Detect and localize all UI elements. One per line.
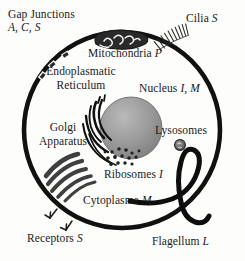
nucleus-sphere	[100, 97, 162, 159]
label-mitochondria-codes: P	[155, 47, 162, 59]
label-ribosomes-codes: I	[159, 168, 163, 180]
label-er-line2: Reticulum	[57, 79, 106, 91]
label-gap-junctions-name: Gap Junctions	[8, 8, 75, 20]
label-cytoplasma-name: Cytoplasma	[83, 194, 139, 206]
label-gap-junctions: Gap Junctions A, C, S	[8, 8, 75, 34]
label-lysosomes: Lysosomes	[155, 124, 207, 137]
label-receptors-name: Receptors	[27, 232, 74, 244]
label-flagellum-codes: L	[203, 235, 210, 247]
label-golgi-line1: Golgi	[50, 121, 77, 133]
label-golgi-line2: Apparatus	[39, 135, 87, 147]
label-cytoplasma: Cytoplasma M	[83, 194, 152, 207]
label-cytoplasma-codes: M	[142, 194, 152, 206]
label-nucleus-name: Nucleus	[139, 82, 177, 94]
label-nucleus-codes: I, M	[180, 82, 200, 94]
label-golgi-apparatus: Golgi Apparatus	[28, 120, 98, 148]
label-endoplasmatic-reticulum: Endoplasmatic Reticulum	[33, 64, 129, 92]
lysosome-body	[175, 140, 186, 151]
label-receptors: Receptors S	[27, 232, 83, 245]
label-nucleus: Nucleus I, M	[139, 82, 200, 95]
label-flagellum: Flagellum L	[152, 235, 209, 248]
label-mitochondria-name: Mitochondria	[88, 47, 152, 59]
cell-diagram-figure: Gap Junctions A, C, S Cilia S Mitochondr…	[0, 0, 245, 261]
label-mitochondria: Mitochondria P	[88, 47, 162, 60]
label-ribosomes: Ribosomes I	[104, 168, 163, 181]
label-lysosomes-name: Lysosomes	[155, 124, 207, 136]
label-er-line1: Endoplasmatic	[46, 65, 116, 77]
label-receptors-codes: S	[77, 232, 83, 244]
label-cilia-name: Cilia	[186, 12, 209, 24]
label-gap-junctions-codes: A, C, S	[8, 21, 75, 34]
label-cilia-codes: S	[212, 12, 218, 24]
label-flagellum-name: Flagellum	[152, 235, 200, 247]
label-cilia: Cilia S	[186, 12, 218, 25]
label-ribosomes-name: Ribosomes	[104, 168, 156, 180]
